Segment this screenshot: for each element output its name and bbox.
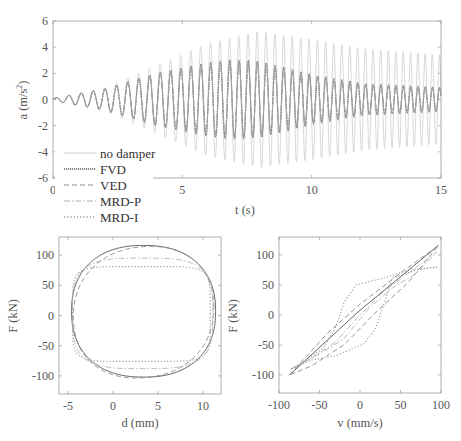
time-history-plot: 051015-6-4-20246 a (m/s2) t (s) no dampe… <box>15 14 447 243</box>
x-tick-label: -100 <box>268 398 290 412</box>
y-tick-label: -100 <box>32 369 54 383</box>
x-tick-label: 10 <box>306 183 318 197</box>
x-tick-label: -5 <box>63 399 73 413</box>
loop-fvd <box>290 245 439 375</box>
x-tick-label: 5 <box>155 399 161 413</box>
cropped-caption-strip <box>0 432 461 441</box>
force-velocity-axes-box <box>279 237 441 393</box>
y-tick-label: -50 <box>258 338 274 352</box>
legend-label: no damper <box>100 146 156 161</box>
force-velocity-ylabel: F (kN) <box>226 299 240 333</box>
force-velocity-curves <box>290 245 439 375</box>
legend-label: MRD-P <box>100 194 141 209</box>
y-tick-label: 100 <box>36 248 54 262</box>
y-tick-label: -6 <box>38 171 48 185</box>
force-displacement-ylabel: F (kN) <box>6 299 20 333</box>
y-tick-label: 0 <box>268 308 274 322</box>
y-tick-label: 0 <box>42 93 48 107</box>
legend-label: MRD-I <box>100 210 138 225</box>
y-tick-label: 0 <box>48 309 54 323</box>
force-velocity-ticks: -100-50050100-100-50050100 <box>252 237 450 412</box>
y-tick-label: 2 <box>42 66 48 80</box>
x-tick-label: 15 <box>435 183 447 197</box>
x-tick-label: 10 <box>197 399 209 413</box>
figure: 051015-6-4-20246 a (m/s2) t (s) no dampe… <box>0 0 461 441</box>
force-displacement-curves <box>72 245 216 378</box>
loop-mrd-p <box>73 258 213 369</box>
y-tick-label: 100 <box>256 248 274 262</box>
legend: no damperFVDVEDMRD-PMRD-I <box>55 143 156 243</box>
x-tick-label: 0 <box>357 398 363 412</box>
loop-ved <box>73 246 213 378</box>
legend-label: FVD <box>100 162 126 177</box>
y-tick-label: -2 <box>38 119 48 133</box>
y-tick-label: -50 <box>38 339 54 353</box>
time-history-xlabel: t (s) <box>235 203 255 217</box>
force-velocity-xlabel: v (mm/s) <box>337 416 382 430</box>
x-tick-label: 5 <box>179 183 185 197</box>
y-tick-label: -4 <box>38 145 48 159</box>
force-velocity-plot: -100-50050100-100-50050100 F (kN) v (mm/… <box>226 237 450 430</box>
x-tick-label: 50 <box>395 398 407 412</box>
force-displacement-plot: -50510-100-50050100 F (kN) d (mm) <box>6 237 221 430</box>
y-tick-label: 50 <box>42 278 54 292</box>
legend-label: VED <box>100 178 127 193</box>
y-tick-label: 4 <box>42 40 48 54</box>
force-displacement-xlabel: d (mm) <box>121 416 158 430</box>
y-tick-label: -100 <box>252 368 274 382</box>
y-tick-label: 6 <box>42 14 48 28</box>
x-tick-label: -50 <box>312 398 328 412</box>
x-tick-label: 100 <box>432 398 450 412</box>
time-history-ylabel: a (m/s2) <box>15 80 30 119</box>
force-displacement-axes-box <box>59 237 221 394</box>
loop-mrd-i <box>73 267 211 362</box>
loop-ved <box>290 245 439 375</box>
x-tick-label: 0 <box>110 399 116 413</box>
y-tick-label: 50 <box>262 278 274 292</box>
